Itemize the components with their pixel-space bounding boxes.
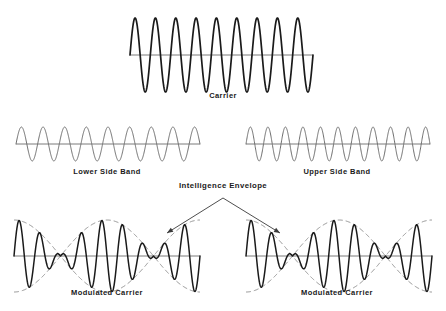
panel-carrier [130,18,313,92]
caption-lower-side-band: Lower Side Band [73,168,141,176]
caption-intelligence-envelope: Intelligence Envelope [179,182,267,190]
panel-upper-side-band [246,127,430,161]
arrow-line-left [167,198,223,233]
waveform-canvas [0,0,446,311]
am-modulation-diagram: Carrier Lower Side Band Upper Side Band … [0,0,446,311]
panel-lower-side-band [16,127,200,161]
caption-modulated-carrier-right: Modulated Carrier [301,289,373,297]
caption-modulated-carrier-left: Modulated Carrier [71,289,143,297]
arrow-line-right [223,198,280,233]
arrow-head-left [167,228,173,233]
caption-upper-side-band: Upper Side Band [303,168,370,176]
panel-modulated-carrier-right [246,220,432,292]
arrow-head-right [274,228,280,233]
caption-carrier: Carrier [209,92,237,100]
